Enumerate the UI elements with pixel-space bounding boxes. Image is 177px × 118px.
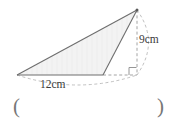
- base-dimension-label: 12cm: [40, 79, 66, 91]
- height-dimension-label: 9cm: [139, 34, 159, 46]
- right-angle-marker: [129, 68, 137, 76]
- answer-paren-left: (: [13, 96, 20, 117]
- apex-vertex-dot: [136, 9, 139, 12]
- base-arc-dashed: [17, 75, 137, 85]
- geometry-drawing: [0, 0, 177, 118]
- triangle-hatch: [22, 0, 132, 118]
- geometry-figure: 9cm 12cm ( ): [0, 0, 177, 118]
- answer-paren-right: ): [157, 96, 164, 117]
